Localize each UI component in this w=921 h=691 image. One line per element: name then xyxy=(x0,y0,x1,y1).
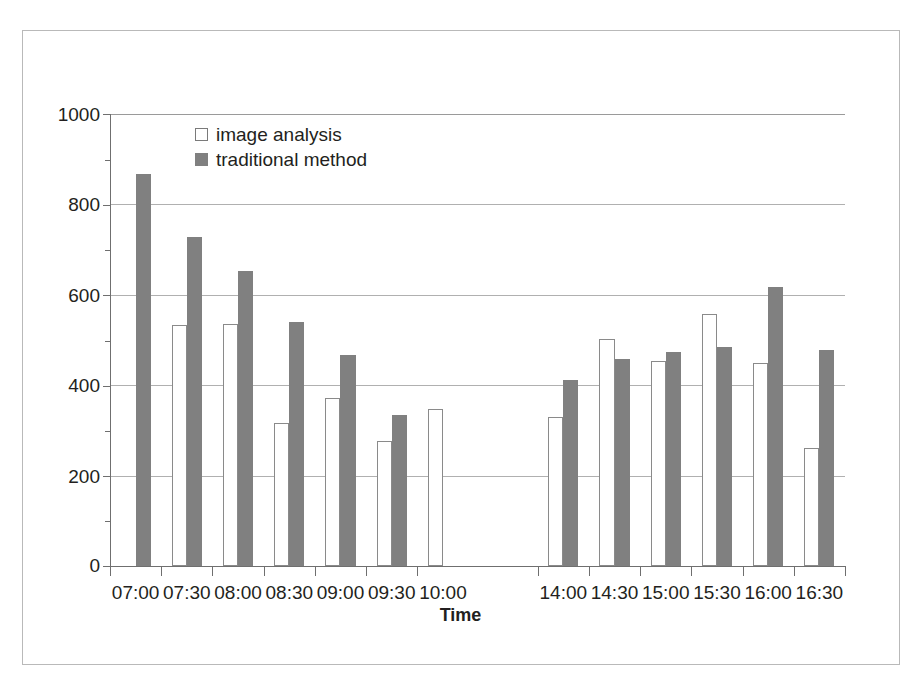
bar-traditional-method-1400 xyxy=(563,380,578,566)
x-tick-mark-1000 xyxy=(417,567,418,576)
y-tick-mark-500 xyxy=(105,341,111,342)
bar-traditional-method-1500 xyxy=(666,352,681,566)
bar-image-analysis-0800 xyxy=(223,324,238,566)
legend-entry-traditional-method: traditional method xyxy=(195,147,367,172)
x-tick-mark-0930 xyxy=(366,567,367,576)
x-tick-label-1000: 10:00 xyxy=(419,582,467,604)
x-tick-mark-0900 xyxy=(315,567,316,576)
y-tick-label-400: 400 xyxy=(68,375,100,397)
y-tick-mark-900 xyxy=(105,160,111,161)
y-tick-mark-100 xyxy=(105,521,111,522)
x-tick-mark-1430 xyxy=(589,567,590,576)
x-tick-mark-0800 xyxy=(212,567,213,576)
x-tick-label-1430: 14:30 xyxy=(591,582,639,604)
bar-traditional-method-1600 xyxy=(768,287,783,566)
x-tick-label-0900: 09:00 xyxy=(317,582,365,604)
chart-legend: image analysis traditional method xyxy=(195,122,367,172)
open-square-icon xyxy=(195,128,208,141)
y-tick-label-200: 200 xyxy=(68,466,100,488)
x-tick-mark-0830 xyxy=(264,567,265,576)
bar-traditional-method-0700 xyxy=(136,174,151,566)
y-tick-mark-200 xyxy=(103,476,111,477)
bar-image-analysis-0930 xyxy=(377,441,392,566)
x-tick-label-0930: 09:30 xyxy=(368,582,416,604)
x-tick-label-1530: 15:30 xyxy=(693,582,741,604)
y-tick-label-0: 0 xyxy=(89,555,100,577)
chart-page: 0 200 400 600 800 1000 Number of people … xyxy=(0,0,921,691)
legend-label-image-analysis: image analysis xyxy=(216,122,342,147)
x-tick-label-0830: 08:30 xyxy=(265,582,313,604)
bar-traditional-method-1630 xyxy=(819,350,834,566)
x-tick-label-1630: 16:30 xyxy=(796,582,844,604)
plot-area xyxy=(110,114,845,566)
x-tick-mark-1500 xyxy=(640,567,641,576)
bar-image-analysis-1600 xyxy=(753,363,768,566)
x-tick-mark-1400 xyxy=(538,567,539,576)
y-tick-mark-300 xyxy=(105,431,111,432)
x-tick-label-1600: 16:00 xyxy=(744,582,792,604)
bar-image-analysis-0730 xyxy=(172,325,187,566)
x-tick-mark-0700 xyxy=(110,567,111,576)
bar-image-analysis-1630 xyxy=(804,448,819,566)
x-axis-title: Time xyxy=(0,605,921,626)
bar-traditional-method-0800 xyxy=(238,271,253,566)
x-tick-label-0730: 07:30 xyxy=(163,582,211,604)
x-tick-mark-0730 xyxy=(161,567,162,576)
y-tick-mark-400 xyxy=(103,386,111,387)
y-tick-mark-800 xyxy=(103,205,111,206)
y-tick-mark-700 xyxy=(105,250,111,251)
bar-image-analysis-1500 xyxy=(651,361,666,566)
y-axis-ticks: 0 200 400 600 800 1000 xyxy=(0,0,100,691)
bar-image-analysis-1000 xyxy=(428,409,443,566)
y-tick-label-600: 600 xyxy=(68,285,100,307)
filled-square-icon xyxy=(195,153,208,166)
x-tick-mark-1600 xyxy=(743,567,744,576)
bar-traditional-method-1530 xyxy=(717,347,732,566)
legend-entry-image-analysis: image analysis xyxy=(195,122,367,147)
x-tick-mark-end xyxy=(845,567,846,576)
x-tick-label-1500: 15:00 xyxy=(642,582,690,604)
y-tick-mark-1000 xyxy=(103,114,111,115)
bar-image-analysis-0900 xyxy=(325,398,340,566)
bar-traditional-method-1430 xyxy=(615,359,630,566)
x-tick-mark-1630 xyxy=(794,567,795,576)
x-axis-line xyxy=(110,566,846,567)
bar-traditional-method-0900 xyxy=(340,355,355,566)
bar-image-analysis-1530 xyxy=(702,314,717,566)
x-tick-label-0700: 07:00 xyxy=(112,582,160,604)
bar-traditional-method-0730 xyxy=(187,237,202,566)
x-tick-label-0800: 08:00 xyxy=(214,582,262,604)
x-tick-label-1400: 14:00 xyxy=(540,582,588,604)
bar-traditional-method-0930 xyxy=(392,415,407,566)
bar-image-analysis-1430 xyxy=(599,339,614,566)
bar-image-analysis-0830 xyxy=(274,423,289,566)
bar-image-analysis-1400 xyxy=(548,417,563,566)
legend-label-traditional-method: traditional method xyxy=(216,147,367,172)
bars-layer xyxy=(110,114,845,566)
y-tick-label-800: 800 xyxy=(68,194,100,216)
y-tick-label-1000: 1000 xyxy=(58,104,100,126)
y-tick-mark-600 xyxy=(103,295,111,296)
bar-traditional-method-0830 xyxy=(289,322,304,566)
x-tick-mark-1530 xyxy=(691,567,692,576)
